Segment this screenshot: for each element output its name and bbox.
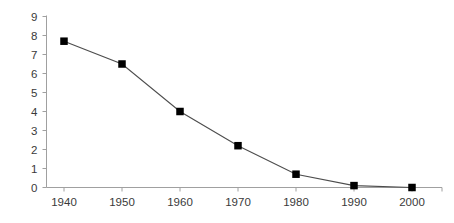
data-point-marker bbox=[408, 184, 416, 192]
x-axis-ticks: 1940195019601970198019902000 bbox=[51, 188, 442, 208]
x-tick-label: 1940 bbox=[51, 196, 77, 208]
data-point-marker bbox=[176, 108, 184, 116]
y-tick-label: 0 bbox=[31, 182, 37, 194]
line-chart: 0123456789 1940195019601970198019902000 bbox=[0, 0, 454, 223]
y-axis-ticks: 0123456789 bbox=[31, 11, 46, 194]
x-tick-label: 1990 bbox=[341, 196, 367, 208]
y-tick-label: 6 bbox=[31, 68, 37, 80]
y-tick-label: 9 bbox=[31, 11, 37, 23]
data-point-marker bbox=[234, 142, 242, 150]
y-tick-label: 2 bbox=[31, 144, 37, 156]
x-tick-label: 1970 bbox=[225, 196, 251, 208]
chart-container: 0123456789 1940195019601970198019902000 bbox=[0, 0, 454, 223]
y-tick-label: 5 bbox=[31, 87, 37, 99]
y-tick-label: 3 bbox=[31, 125, 37, 137]
data-point-marker bbox=[350, 182, 358, 190]
chart-axes bbox=[47, 16, 443, 188]
data-point-marker bbox=[60, 37, 68, 45]
y-tick-label: 8 bbox=[31, 30, 37, 42]
x-tick-label: 1950 bbox=[109, 196, 135, 208]
x-tick-label: 1960 bbox=[167, 196, 193, 208]
y-tick-label: 4 bbox=[31, 106, 38, 118]
series-polyline bbox=[64, 41, 412, 187]
x-tick-label: 2000 bbox=[399, 196, 425, 208]
y-tick-label: 7 bbox=[31, 49, 37, 61]
data-series-line bbox=[64, 41, 412, 187]
data-point-marker bbox=[118, 60, 126, 68]
y-tick-label: 1 bbox=[31, 163, 37, 175]
x-tick-label: 1980 bbox=[283, 196, 309, 208]
data-point-marker bbox=[292, 170, 300, 178]
